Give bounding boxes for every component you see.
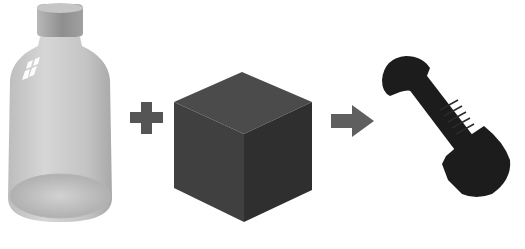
arrow-right-icon [331, 105, 375, 137]
bolt-image [380, 52, 520, 202]
plus-icon [130, 102, 163, 134]
cube-image [172, 70, 322, 222]
scene [0, 0, 525, 249]
bottle-image [0, 0, 120, 225]
